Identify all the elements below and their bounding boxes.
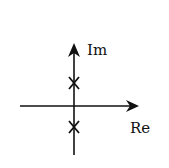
pole-zero-diagram: Im Re — [0, 0, 169, 168]
imaginary-axis — [68, 43, 80, 155]
im-axis-label: Im — [87, 41, 107, 59]
re-axis-label: Re — [130, 119, 150, 137]
real-axis — [20, 100, 139, 112]
